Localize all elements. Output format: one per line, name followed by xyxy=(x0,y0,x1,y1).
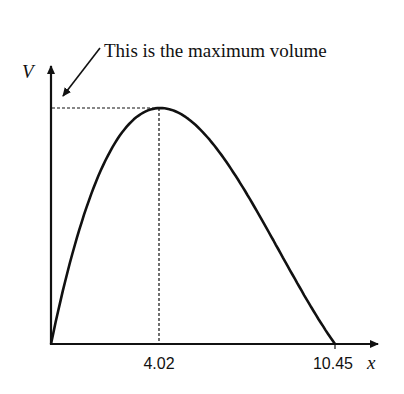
y-axis-label: V xyxy=(22,61,36,82)
annotation-text: This is the maximum volume xyxy=(104,40,327,61)
volume-chart: This is the maximum volume V x 4.02 10.4… xyxy=(0,0,404,394)
x-tick-label-max: 4.02 xyxy=(143,355,174,372)
volume-curve xyxy=(51,108,335,344)
x-axis-label: x xyxy=(366,352,376,373)
x-tick-label-root: 10.45 xyxy=(313,355,353,372)
annotation-arrow xyxy=(63,48,100,96)
